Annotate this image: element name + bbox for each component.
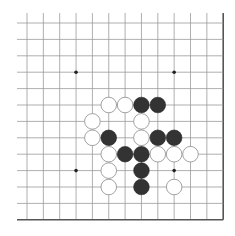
white-stone xyxy=(85,130,101,146)
white-stone xyxy=(134,130,150,146)
star-point xyxy=(172,70,176,74)
star-point xyxy=(172,169,176,173)
black-stone xyxy=(134,179,150,195)
white-stone xyxy=(183,146,199,162)
board-grid xyxy=(17,13,223,220)
white-stone xyxy=(101,179,117,195)
white-stone xyxy=(150,146,166,162)
black-stone xyxy=(166,130,182,146)
black-stone xyxy=(101,130,117,146)
stones xyxy=(85,97,199,195)
star-point xyxy=(74,70,78,74)
black-stone xyxy=(150,130,166,146)
white-stone xyxy=(85,114,101,130)
white-stone xyxy=(166,146,182,162)
black-stone xyxy=(134,163,150,179)
star-point xyxy=(74,169,78,173)
black-stone xyxy=(134,146,150,162)
go-board xyxy=(0,0,235,236)
white-stone xyxy=(101,97,117,113)
white-stone xyxy=(101,163,117,179)
white-stone xyxy=(101,146,117,162)
black-stone xyxy=(134,97,150,113)
white-stone xyxy=(166,179,182,195)
black-stone xyxy=(117,146,133,162)
white-stone xyxy=(117,97,133,113)
white-stone xyxy=(134,114,150,130)
black-stone xyxy=(150,97,166,113)
